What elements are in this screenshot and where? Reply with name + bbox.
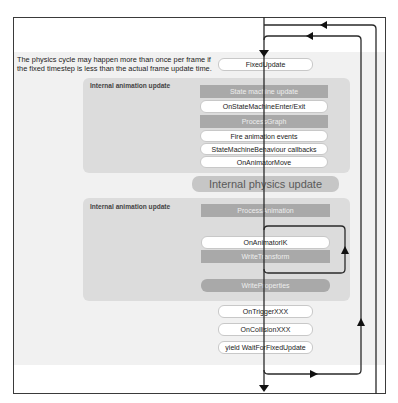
arrow-down-icon — [259, 385, 269, 392]
arrow-left-icon — [320, 21, 327, 29]
ik-loop-line — [264, 226, 345, 273]
arrow-up-icon — [357, 318, 365, 326]
flow-arrows — [0, 0, 398, 403]
outer-loop-line — [264, 25, 376, 394]
arrow-right-icon — [310, 370, 318, 378]
arrow-up-icon — [341, 246, 349, 254]
arrow-left-icon — [306, 32, 313, 40]
physics-loop-line — [264, 36, 361, 374]
arrow-down-icon — [259, 50, 269, 57]
